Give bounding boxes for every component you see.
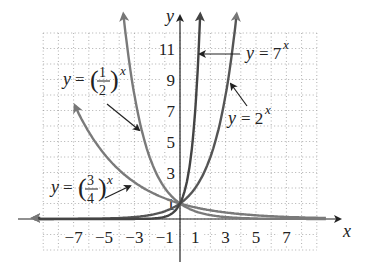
svg-text:= 7: = 7 — [259, 44, 282, 63]
label-two: y = 2 x — [226, 102, 271, 128]
svg-text:(: ( — [90, 65, 99, 94]
x-tick-label: −3 — [125, 228, 143, 247]
label-threequarters: y = ( 3 4 ) x — [49, 172, 113, 206]
svg-text:y: y — [244, 43, 254, 63]
svg-text:): ) — [110, 65, 119, 94]
y-tick-label: 5 — [167, 133, 176, 152]
y-tick-label: 3 — [167, 164, 176, 183]
x-tick-label: −5 — [95, 228, 113, 247]
curve-y-3-4-x — [75, 106, 326, 218]
x-tick-label: 5 — [252, 228, 261, 247]
y-axis-label: y — [164, 6, 174, 26]
svg-text:y: y — [61, 69, 71, 89]
svg-text:1: 1 — [99, 65, 106, 80]
arrow-two — [231, 84, 247, 106]
svg-text:2: 2 — [99, 83, 106, 98]
svg-text:= 2: = 2 — [241, 109, 263, 128]
exponential-functions-chart: xy −7−5−3−113571197531 y = ( 1 2 ) x y =… — [0, 0, 377, 273]
y-tick-label: 9 — [167, 71, 176, 90]
x-tick-label: 3 — [221, 228, 230, 247]
svg-text:x: x — [119, 63, 126, 78]
x-tick-label: −1 — [156, 228, 174, 247]
y-tick-label: 11 — [159, 40, 175, 59]
svg-text:4: 4 — [87, 191, 94, 206]
svg-text:x: x — [282, 37, 289, 52]
x-axis-label: x — [342, 221, 351, 241]
svg-text:3: 3 — [87, 173, 94, 188]
label-seven: y = 7 x — [244, 37, 289, 63]
svg-text:y: y — [49, 177, 59, 197]
svg-text:y: y — [226, 108, 236, 128]
svg-text:=: = — [63, 178, 73, 197]
x-tick-label: −7 — [65, 228, 84, 247]
x-tick-label: 7 — [282, 228, 291, 247]
svg-text:=: = — [75, 70, 85, 89]
svg-text:x: x — [106, 172, 113, 187]
label-half: y = ( 1 2 ) x — [61, 63, 126, 98]
svg-text:(: ( — [78, 173, 87, 202]
x-tick-label: 1 — [191, 228, 200, 247]
y-tick-label: 7 — [167, 102, 176, 121]
svg-text:x: x — [264, 102, 271, 117]
axes: xy — [18, 6, 351, 262]
